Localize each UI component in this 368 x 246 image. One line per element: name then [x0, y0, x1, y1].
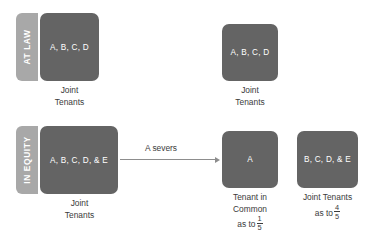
caption-line-2: Common — [220, 204, 280, 216]
box-at-law-joint-tenants: A, B, C, D — [40, 13, 99, 81]
caption-at-law-joint-tenants-after: Joint Tenants — [220, 85, 280, 108]
caption-line-2: Tenants — [39, 97, 100, 109]
caption-line-1: Tenant in — [220, 192, 280, 204]
caption-in-equity-joint-tenants: Joint Tenants — [49, 198, 110, 221]
caption-line-2: as to45 — [294, 204, 361, 221]
box-members-label: A — [247, 155, 253, 164]
caption-line-1: Joint — [49, 198, 110, 210]
fraction-one-fifth: 15 — [257, 215, 263, 232]
box-members-label: B, C, D, & E — [304, 155, 351, 164]
fraction-denominator: 5 — [334, 212, 340, 220]
caption-as-to-text: as to — [237, 219, 255, 229]
arrow-head-icon — [215, 157, 220, 163]
caption-line-2: Tenants — [220, 97, 280, 109]
caption-line-3: as to15 — [220, 215, 280, 232]
box-tenant-in-common-a: A — [222, 131, 278, 188]
box-members-label: A, B, C, D, & E — [50, 156, 108, 165]
box-joint-tenants-bcde: B, C, D, & E — [297, 131, 358, 188]
row-label-at-law: AT LAW — [16, 13, 38, 81]
caption-as-to-text: as to — [315, 208, 333, 218]
fraction-denominator: 5 — [257, 224, 263, 232]
fraction-four-fifths: 45 — [334, 204, 340, 221]
caption-line-1: Joint — [220, 85, 280, 97]
caption-tenant-in-common: Tenant in Common as to15 — [220, 192, 280, 232]
arrow-line — [120, 159, 216, 160]
caption-line-1: Joint — [39, 85, 100, 97]
caption-at-law-joint-tenants: Joint Tenants — [39, 85, 100, 108]
row-label-in-equity: IN EQUITY — [16, 126, 38, 194]
box-members-label: A, B, C, D — [50, 43, 89, 52]
box-at-law-joint-tenants-after: A, B, C, D — [222, 24, 278, 81]
caption-joint-tenants-four-fifths: Joint Tenants as to45 — [294, 192, 361, 220]
row-label-in-equity-text: IN EQUITY — [22, 136, 32, 183]
arrow-label-a-severs: A severs — [126, 143, 196, 153]
row-label-at-law-text: AT LAW — [22, 29, 32, 64]
box-members-label: A, B, C, D — [231, 48, 270, 57]
severance-diagram: AT LAW A, B, C, D Joint Tenants A, B, C,… — [0, 0, 368, 246]
caption-line-2: Tenants — [49, 210, 110, 222]
caption-line-1: Joint Tenants — [294, 192, 361, 204]
box-in-equity-joint-tenants: A, B, C, D, & E — [40, 126, 118, 194]
